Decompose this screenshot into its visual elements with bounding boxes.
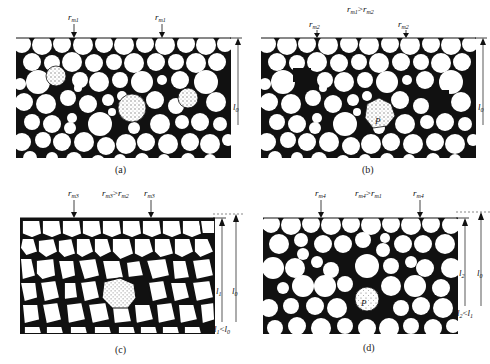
pore-radius-marker-left: rm4 (315, 188, 326, 218)
relation-label: rm3>rm2 (102, 188, 129, 199)
caption-b: (b) (362, 164, 374, 175)
pore-radius-marker-right: rm1 (155, 12, 166, 38)
p-label: P (374, 116, 381, 126)
lp-label: LP (295, 70, 307, 81)
svg-text:rm4: rm4 (413, 188, 424, 199)
panel-b: LP LP P rm1>rm2 rm2 rm2 l0 (b) (255, 0, 490, 182)
length-indicator-l0: l0 (456, 212, 490, 306)
svg-text:l1: l1 (216, 286, 222, 297)
caption-a: (a) (115, 164, 126, 175)
p-label: P (360, 298, 367, 308)
svg-text:rm4>rm1: rm4>rm1 (355, 188, 382, 199)
panel-c-diagram: rm3 rm3>rm2 rm3 l1 l0 l1<l0 (10, 182, 245, 364)
svg-text:l0: l0 (232, 286, 238, 297)
lp-label: LP (433, 92, 445, 103)
special-particle (118, 94, 146, 122)
rm1-label: rm1 (68, 12, 79, 23)
particle-bed-c (20, 218, 215, 334)
svg-text:rm3: rm3 (144, 188, 155, 199)
svg-text:rm4: rm4 (315, 188, 326, 199)
panel-a: rm1 rm1 l0 (a) (10, 0, 245, 182)
panel-b-diagram: LP LP P rm1>rm2 rm2 rm2 l0 (255, 0, 490, 182)
length-indicator-l0: l0 (475, 38, 487, 125)
rm1-label: rm1 (155, 12, 166, 23)
inequality-label: l1<l0 (214, 324, 230, 335)
particle-bed-b (258, 35, 479, 169)
pore-radius-marker-left: rm2 (309, 19, 320, 38)
svg-text:l2: l2 (459, 268, 465, 279)
svg-text:rm3>rm2: rm3>rm2 (102, 188, 129, 199)
inequality-label: l2<l1 (457, 308, 473, 319)
svg-text:rm2: rm2 (309, 19, 320, 30)
pore-radius-marker-right: rm2 (398, 19, 409, 38)
svg-text:l0: l0 (477, 268, 483, 279)
length-indicator-l0: l0 (213, 214, 245, 322)
particle-bed-a (13, 35, 234, 169)
panel-d: P rm4 rm4>rm1 rm4 l2 l0 l2<l1 (255, 182, 490, 364)
svg-text:l1<l0: l1<l0 (214, 324, 230, 335)
pore-radius-marker-right: rm4 (413, 188, 424, 218)
svg-text:rm3: rm3 (68, 188, 79, 199)
caption-d: (d) (363, 342, 375, 353)
svg-text:rm2: rm2 (398, 19, 409, 30)
pore-radius-marker-left: rm3 (68, 188, 79, 218)
special-particle (46, 66, 66, 86)
length-indicator-l0: l0 (230, 38, 242, 125)
relation-label: rm4>rm1 (355, 188, 382, 199)
special-particle (355, 287, 379, 311)
caption-c: (c) (115, 344, 126, 355)
special-particle (178, 88, 198, 108)
svg-text:l2<l1: l2<l1 (457, 308, 473, 319)
svg-text:rm1>rm2: rm1>rm2 (347, 4, 374, 15)
special-particle (102, 278, 136, 308)
pore-radius-marker-right: rm3 (144, 188, 155, 218)
particle-bed-d (260, 215, 461, 338)
panel-c: rm3 rm3>rm2 rm3 l1 l0 l1<l0 (c) (10, 182, 245, 364)
panel-a-diagram: rm1 rm1 l0 (10, 0, 245, 182)
panel-d-diagram: P rm4 rm4>rm1 rm4 l2 l0 l2<l1 (255, 182, 490, 364)
pore-radius-marker-left: rm1 (68, 12, 79, 38)
relation-label: rm1>rm2 (347, 4, 374, 15)
